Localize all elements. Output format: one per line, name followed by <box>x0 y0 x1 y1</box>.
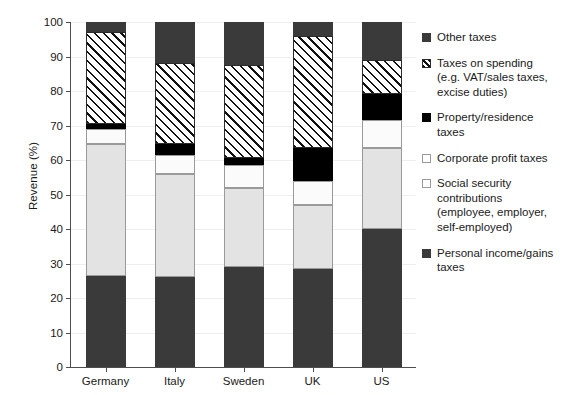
y-tick-label: 80 <box>50 85 63 97</box>
x-tick-mark <box>313 367 314 372</box>
legend-label: Property/residence taxes <box>437 110 534 139</box>
segment-spending <box>224 65 264 158</box>
segment-spending <box>86 32 126 123</box>
segment-personal <box>86 276 126 367</box>
legend-item: Personal income/gains taxes <box>422 246 580 275</box>
legend-item: Property/residence taxes <box>422 110 580 139</box>
bar-sweden <box>224 22 264 367</box>
bar-italy <box>155 22 195 367</box>
segment-social <box>155 174 195 278</box>
y-tick-label: 30 <box>50 258 63 270</box>
y-tick-mark <box>66 195 71 196</box>
segment-personal <box>293 269 333 367</box>
y-tick-label: 90 <box>50 51 63 63</box>
x-tick-mark <box>175 367 176 372</box>
legend-item: Taxes on spending (e.g. VAT/sales taxes,… <box>422 56 580 100</box>
segment-personal <box>155 277 195 367</box>
segment-spending <box>293 36 333 148</box>
segment-other <box>293 22 333 36</box>
y-tick-label: 10 <box>50 327 63 339</box>
x-tick-label-sweden: Sweden <box>223 375 265 387</box>
y-tick-mark <box>66 91 71 92</box>
legend-swatch-icon <box>422 249 431 258</box>
y-tick-mark <box>66 229 71 230</box>
segment-personal <box>224 267 264 367</box>
legend-item: Other taxes <box>422 30 580 45</box>
segment-personal <box>362 229 402 367</box>
legend-swatch-icon <box>422 179 431 188</box>
segment-corporate <box>86 129 126 145</box>
legend: Other taxesTaxes on spending (e.g. VAT/s… <box>422 30 580 286</box>
segment-social <box>224 188 264 267</box>
x-tick-label-us: US <box>374 375 390 387</box>
legend-label: Other taxes <box>437 30 496 45</box>
legend-label: Personal income/gains taxes <box>437 246 553 275</box>
y-tick-mark <box>66 264 71 265</box>
legend-label: Taxes on spending (e.g. VAT/sales taxes,… <box>437 56 548 100</box>
y-tick-label: 20 <box>50 292 63 304</box>
segment-social <box>362 148 402 229</box>
segment-property <box>86 124 126 129</box>
legend-swatch-icon <box>422 154 431 163</box>
x-tick-label-italy: Italy <box>164 375 185 387</box>
bar-germany <box>86 22 126 367</box>
y-tick-label: 100 <box>44 16 63 28</box>
x-tick-label-germany: Germany <box>82 375 129 387</box>
x-tick-mark <box>106 367 107 372</box>
x-tick-label-uk: UK <box>305 375 321 387</box>
segment-corporate <box>224 165 264 187</box>
x-tick-mark <box>382 367 383 372</box>
y-tick-mark <box>66 126 71 127</box>
segment-corporate <box>293 181 333 205</box>
y-tick-mark <box>66 367 71 368</box>
x-tick-mark <box>244 367 245 372</box>
y-tick-mark <box>66 298 71 299</box>
y-tick-mark <box>66 57 71 58</box>
legend-label: Corporate profit taxes <box>437 151 548 166</box>
segment-property <box>293 148 333 181</box>
legend-label: Social security contributions (employee,… <box>437 176 547 234</box>
y-tick-label: 40 <box>50 223 63 235</box>
segment-other <box>362 22 402 60</box>
y-tick-mark <box>66 160 71 161</box>
segment-property <box>362 94 402 120</box>
y-axis-title: Revenue (%) <box>27 96 39 256</box>
segment-other <box>155 22 195 63</box>
segment-property <box>155 144 195 154</box>
y-tick-label: 70 <box>50 120 63 132</box>
y-tick-label: 60 <box>50 154 63 166</box>
legend-item: Social security contributions (employee,… <box>422 176 580 234</box>
segment-corporate <box>362 120 402 148</box>
stacked-bar-chart: Revenue (%) 0102030405060708090100 Germa… <box>0 0 583 395</box>
legend-item: Corporate profit taxes <box>422 151 580 166</box>
legend-swatch-icon <box>422 33 431 42</box>
bar-us <box>362 22 402 367</box>
segment-corporate <box>155 155 195 174</box>
y-tick-mark <box>66 333 71 334</box>
segment-spending <box>362 60 402 95</box>
y-tick-mark <box>66 22 71 23</box>
legend-swatch-icon <box>422 59 431 68</box>
segment-spending <box>155 63 195 144</box>
segment-other <box>224 22 264 65</box>
bar-uk <box>293 22 333 367</box>
plot-area: 0102030405060708090100 GermanyItalySwede… <box>70 22 416 368</box>
segment-other <box>86 22 126 32</box>
y-tick-label: 50 <box>50 189 63 201</box>
segment-property <box>224 158 264 165</box>
segment-social <box>293 205 333 269</box>
segment-social <box>86 144 126 275</box>
y-tick-label: 0 <box>57 361 63 373</box>
legend-swatch-icon <box>422 113 431 122</box>
